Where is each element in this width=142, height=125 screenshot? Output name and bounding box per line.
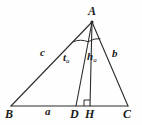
segment-ab xyxy=(11,22,92,106)
point-label-h: H xyxy=(85,108,94,120)
point-label-d: D xyxy=(70,108,79,120)
cevian-label-ha: ha xyxy=(87,51,97,64)
side-label-a: a xyxy=(45,106,51,117)
side-label-b: b xyxy=(112,48,118,59)
cevian-label-ta-sub: a xyxy=(66,57,70,65)
segment-ah-altitude xyxy=(90,22,92,106)
segment-ac xyxy=(92,22,128,106)
angle-arc-icon xyxy=(73,40,88,42)
vertex-label-a: A xyxy=(88,5,96,17)
geometry-figure: A B C D H c b a ta ha xyxy=(0,0,142,125)
angle-arc-secondary-icon xyxy=(88,39,100,42)
vertex-label-c: C xyxy=(123,108,131,120)
side-label-c: c xyxy=(40,47,45,58)
apex-node xyxy=(90,20,93,23)
segment-ad-angle-bisector xyxy=(76,22,92,106)
cevian-label-ha-sub: a xyxy=(93,56,97,64)
right-angle-icon xyxy=(84,100,90,106)
cevian-label-ta: ta xyxy=(63,52,70,65)
vertex-label-b: B xyxy=(5,108,13,120)
